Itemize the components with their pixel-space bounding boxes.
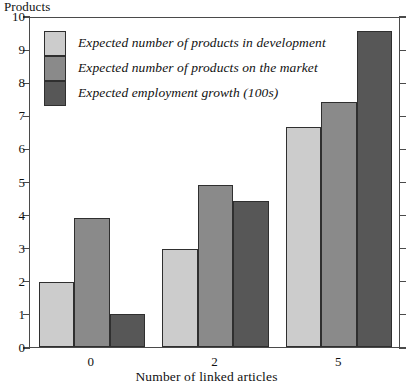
y-tick-mark-right bbox=[399, 347, 406, 348]
x-tick-label: 0 bbox=[88, 355, 95, 369]
legend-swatch-market bbox=[44, 56, 66, 81]
bar bbox=[39, 282, 75, 347]
y-tick-mark-right bbox=[399, 116, 406, 117]
y-tick-mark-right bbox=[399, 50, 406, 51]
y-tick-label: 3 bbox=[19, 242, 26, 255]
bar-chart: Products 012345678910 025 Number of link… bbox=[0, 0, 413, 387]
legend-item: Expected number of products on the marke… bbox=[44, 56, 344, 81]
y-tick-mark-right bbox=[399, 215, 406, 216]
y-tick-mark-right bbox=[399, 281, 406, 282]
bar bbox=[233, 201, 269, 347]
bar bbox=[110, 314, 146, 347]
y-tick-label: 2 bbox=[19, 275, 26, 288]
y-tick-label: 9 bbox=[19, 43, 26, 56]
y-axis-title: Products bbox=[4, 0, 50, 14]
legend-item: Expected number of products in developme… bbox=[44, 31, 344, 56]
legend-label: Expected employment growth (100s) bbox=[78, 84, 278, 101]
y-tick-label: 6 bbox=[19, 142, 26, 155]
legend-label: Expected number of products in developme… bbox=[78, 34, 326, 51]
y-tick-label: 0 bbox=[19, 341, 26, 354]
y-tick-mark-right bbox=[399, 248, 406, 249]
y-tick-mark-right bbox=[399, 314, 406, 315]
y-tick-mark-right bbox=[399, 149, 406, 150]
bar bbox=[74, 218, 110, 347]
y-tick-label: 8 bbox=[19, 76, 26, 89]
y-tick-label: 7 bbox=[19, 109, 26, 122]
y-tick-mark-right bbox=[399, 182, 406, 183]
bar bbox=[162, 249, 198, 347]
bar bbox=[198, 185, 234, 347]
bar bbox=[286, 127, 322, 347]
x-tick-label: 2 bbox=[211, 355, 218, 369]
y-tick-label: 1 bbox=[19, 308, 26, 321]
chart-legend: Expected number of products in developme… bbox=[44, 31, 344, 106]
y-tick-label: 10 bbox=[12, 10, 25, 23]
bar bbox=[357, 31, 393, 347]
legend-swatch-development bbox=[44, 31, 66, 56]
bar bbox=[321, 102, 357, 347]
legend-item: Expected employment growth (100s) bbox=[44, 81, 344, 106]
x-axis-title: Number of linked articles bbox=[0, 369, 413, 384]
y-tick-label: 5 bbox=[19, 176, 26, 189]
legend-label: Expected number of products on the marke… bbox=[78, 59, 318, 76]
x-tick-label: 5 bbox=[335, 355, 342, 369]
y-tick-mark-right bbox=[399, 83, 406, 84]
y-tick-label: 4 bbox=[19, 209, 26, 222]
y-tick-mark-right bbox=[399, 16, 406, 17]
legend-swatch-employment bbox=[44, 81, 66, 106]
